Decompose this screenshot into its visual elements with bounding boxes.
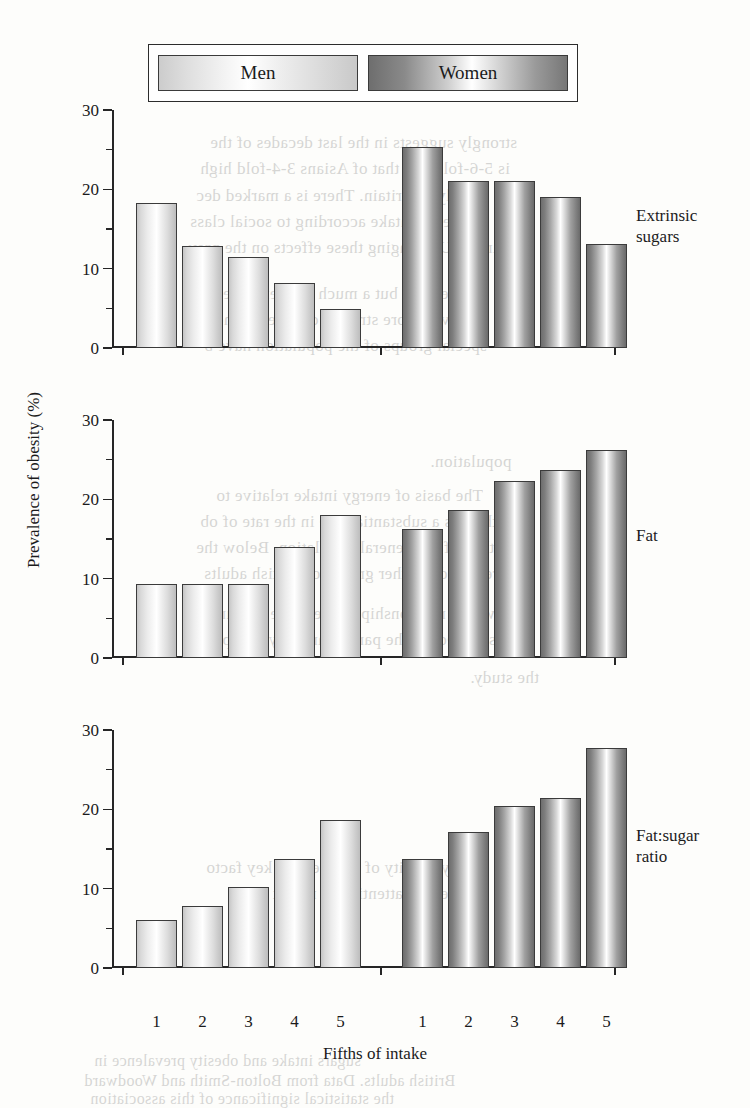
x-axis-tick-label: 4 <box>290 1012 299 1032</box>
y-axis-tick-major <box>103 268 112 270</box>
panel-fat: 0102030 Fat <box>0 420 750 670</box>
x-axis-tick <box>380 968 382 975</box>
legend-key-men: Men <box>158 55 358 91</box>
y-axis-tick-major <box>103 967 112 969</box>
x-axis-tick-label: 5 <box>602 1012 611 1032</box>
bar-men-fifth-2 <box>182 246 223 348</box>
y-axis-tick-label: 10 <box>82 260 99 277</box>
y-axis-tick-minor <box>106 928 112 930</box>
y-axis-tick-major <box>103 419 112 421</box>
bar-men-fifth-1 <box>136 584 177 658</box>
x-axis-tick <box>614 968 616 975</box>
bar-women-fifth-3 <box>494 181 535 348</box>
y-axis-tick-label: 0 <box>91 340 100 357</box>
legend-label-men: Men <box>241 62 276 84</box>
panel-caption-2: Fat <box>636 526 658 547</box>
plot-area-1: 0102030 <box>112 110 622 348</box>
y-axis-tick-major <box>103 657 112 659</box>
bar-men-fifth-4 <box>274 283 315 348</box>
y-axis-tick-label: 10 <box>82 570 99 587</box>
y-axis-line <box>112 110 114 348</box>
bar-men-fifth-1 <box>136 203 177 348</box>
y-axis-tick-label: 30 <box>82 412 99 429</box>
bar-men-fifth-2 <box>182 584 223 658</box>
bar-men-fifth-3 <box>228 257 269 348</box>
y-axis-tick-label: 0 <box>91 650 100 667</box>
panel-fat-sugar-ratio: 0102030 Fat:sugar ratio <box>0 730 750 980</box>
bleed-text-line: the study. <box>470 668 539 688</box>
legend-label-women: Women <box>439 62 498 84</box>
x-axis-tick-label: 2 <box>198 1012 207 1032</box>
bar-women-fifth-3 <box>494 806 535 968</box>
plot-area-2: 0102030 <box>112 420 622 658</box>
y-axis-tick-major <box>103 729 112 731</box>
x-axis-tick-label: 5 <box>336 1012 345 1032</box>
bar-men-fifth-1 <box>136 920 177 968</box>
y-axis-tick-label: 20 <box>82 801 99 818</box>
x-axis-tick <box>122 348 124 355</box>
y-axis-tick-label: 20 <box>82 181 99 198</box>
bar-men-fifth-2 <box>182 906 223 968</box>
bar-women-fifth-2 <box>448 832 489 968</box>
plot-area-3: 0102030 <box>112 730 622 968</box>
y-axis-tick-major <box>103 189 112 191</box>
y-axis-tick-minor <box>106 308 112 310</box>
y-axis-line <box>112 730 114 968</box>
bar-men-fifth-3 <box>228 584 269 658</box>
panel-caption-1: Extrinsic sugars <box>636 206 697 247</box>
y-axis-tick-minor <box>106 228 112 230</box>
y-axis-tick-minor <box>106 538 112 540</box>
y-axis-tick-label: 0 <box>91 960 100 977</box>
y-axis-tick-minor <box>106 149 112 151</box>
bar-women-fifth-4 <box>540 470 581 658</box>
panel-extrinsic-sugars: 0102030 Extrinsic sugars <box>0 110 750 360</box>
bar-women-fifth-1 <box>402 859 443 968</box>
x-axis-tick <box>380 348 382 355</box>
y-axis-tick-label: 30 <box>82 102 99 119</box>
y-axis-tick-minor <box>106 769 112 771</box>
x-axis-title: Fifths of intake <box>0 1044 750 1064</box>
bar-men-fifth-3 <box>228 887 269 968</box>
bar-men-fifth-5 <box>320 309 361 348</box>
x-axis-tick <box>614 348 616 355</box>
y-axis-tick-label: 10 <box>82 880 99 897</box>
y-axis-tick-minor <box>106 848 112 850</box>
x-axis-tick-label: 3 <box>510 1012 519 1032</box>
bar-women-fifth-2 <box>448 181 489 348</box>
bar-women-fifth-5 <box>586 244 627 348</box>
y-axis-tick-minor <box>106 459 112 461</box>
y-axis-tick-major <box>103 499 112 501</box>
x-axis-tick-label: 3 <box>244 1012 253 1032</box>
bar-men-fifth-5 <box>320 820 361 968</box>
bar-men-fifth-5 <box>320 515 361 658</box>
x-axis-tick-label: 1 <box>418 1012 427 1032</box>
y-axis-tick-minor <box>106 618 112 620</box>
y-axis-tick-major <box>103 347 112 349</box>
chart-legend: Men Women <box>148 44 578 102</box>
x-axis-tick <box>122 658 124 665</box>
y-axis-tick-major <box>103 809 112 811</box>
x-axis-tick <box>380 658 382 665</box>
y-axis-tick-label: 20 <box>82 491 99 508</box>
y-axis-tick-major <box>103 109 112 111</box>
bar-women-fifth-1 <box>402 529 443 658</box>
x-axis-tick <box>614 658 616 665</box>
x-axis-tick-label: 2 <box>464 1012 473 1032</box>
y-axis-tick-label: 30 <box>82 722 99 739</box>
bar-men-fifth-4 <box>274 859 315 968</box>
x-axis-tick <box>122 968 124 975</box>
bar-women-fifth-2 <box>448 510 489 658</box>
y-axis-tick-major <box>103 888 112 890</box>
y-axis-line <box>112 420 114 658</box>
bleed-text-line: the statistical significance of this ass… <box>90 1090 394 1108</box>
y-axis-tick-major <box>103 578 112 580</box>
bar-men-fifth-4 <box>274 547 315 658</box>
bar-women-fifth-4 <box>540 197 581 348</box>
x-axis-tick-label: 4 <box>556 1012 565 1032</box>
bar-women-fifth-5 <box>586 450 627 658</box>
bar-women-fifth-3 <box>494 481 535 658</box>
bar-women-fifth-1 <box>402 147 443 349</box>
x-axis-tick-label: 1 <box>152 1012 161 1032</box>
legend-key-women: Women <box>368 55 568 91</box>
